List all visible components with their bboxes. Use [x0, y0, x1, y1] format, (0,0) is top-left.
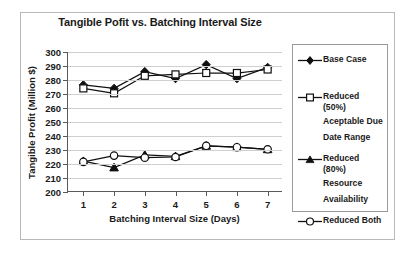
y-axis-tick — [63, 66, 68, 67]
x-axis-label: Batching Interval Size (Days) — [67, 213, 282, 224]
legend-item-reduced-resource-availability-line2: Resource — [297, 178, 383, 190]
gridline — [68, 94, 282, 95]
x-axis-tick — [114, 191, 115, 196]
x-axis-tick-label: 1 — [81, 199, 86, 210]
legend-key-spacer — [297, 133, 323, 144]
gridline — [68, 66, 282, 67]
y-axis-tick — [63, 94, 68, 95]
x-axis-tick-label: 5 — [204, 199, 209, 210]
x-axis-tick — [268, 191, 269, 196]
open-square-data-point — [80, 85, 87, 92]
legend-item-reduced-due-date-range-line3: Date Range — [297, 132, 383, 144]
legend-label: Base Case — [323, 54, 366, 65]
open-circle-marker-icon — [297, 216, 323, 227]
open-circle-data-point — [172, 153, 179, 160]
open-square-data-point — [172, 71, 179, 78]
x-axis-tick-label: 2 — [111, 199, 116, 210]
y-axis-tick — [63, 164, 68, 165]
y-axis-tick-label: 270 — [45, 89, 61, 100]
x-axis-tick-label: 4 — [173, 199, 178, 210]
open-square-data-point — [203, 70, 210, 77]
gridline — [68, 108, 282, 109]
y-axis-tick-label: 250 — [45, 117, 61, 128]
y-axis-tick — [63, 122, 68, 123]
y-axis-tick-label: 260 — [45, 103, 61, 114]
x-axis-tick — [237, 191, 238, 196]
y-axis-tick — [63, 150, 68, 151]
x-axis-tick-label: 6 — [234, 199, 239, 210]
x-axis-tick-label: 7 — [265, 199, 270, 210]
y-axis-tick-label: 210 — [45, 173, 61, 184]
open-square-data-point — [233, 70, 240, 77]
legend-label: Date Range — [323, 132, 370, 143]
x-axis-tick — [206, 191, 207, 196]
y-axis-tick — [63, 136, 68, 137]
y-axis-tick — [63, 52, 68, 53]
legend-spacer — [297, 70, 383, 91]
y-axis-tick-label: 280 — [45, 75, 61, 86]
gridline — [68, 122, 282, 123]
gridline — [68, 52, 282, 53]
x-axis-tick — [83, 191, 84, 196]
x-axis-tick — [145, 191, 146, 196]
chart-legend: Base Case Reduced (50%) Aceptable Due Da… — [292, 44, 388, 212]
gridline — [68, 136, 282, 137]
legend-label: Reduced Both — [323, 215, 381, 226]
legend-key-spacer — [297, 179, 323, 190]
legend-key-spacer — [297, 195, 323, 206]
y-axis-tick — [63, 108, 68, 109]
filled-diamond-data-point — [202, 60, 210, 68]
filled-triangle-marker-icon — [297, 154, 323, 165]
y-axis-tick-label: 300 — [45, 47, 61, 58]
x-axis-tick-label: 3 — [142, 199, 147, 210]
open-square-marker-icon — [297, 92, 323, 103]
open-square-data-point — [141, 72, 148, 79]
y-axis-tick — [63, 192, 68, 193]
y-axis-tick-label: 240 — [45, 131, 61, 142]
filled-diamond-marker-icon — [297, 55, 323, 66]
legend-item-reduced-resource-availability-line3: Availability — [297, 194, 383, 206]
legend-label: Resource — [323, 178, 362, 189]
open-circle-data-point — [141, 154, 148, 161]
plot-area: 2002102202302402502602702802903001234567 — [67, 52, 282, 192]
open-circle-data-point — [110, 152, 117, 159]
y-axis-tick — [63, 80, 68, 81]
legend-item-base-case[interactable]: Base Case — [297, 54, 383, 66]
gridline — [68, 150, 282, 151]
legend-label: Reduced (50%) — [323, 91, 383, 112]
open-square-data-point — [264, 66, 271, 73]
y-axis-tick-label: 200 — [45, 187, 61, 198]
legend-item-reduced-due-date-range[interactable]: Reduced (50%) — [297, 91, 383, 112]
legend-item-reduced-resource-availability[interactable]: Reduced (80%) — [297, 153, 383, 174]
legend-key-spacer — [297, 117, 323, 128]
gridline — [68, 178, 282, 179]
legend-item-reduced-due-date-range-line2: Aceptable Due — [297, 116, 383, 128]
open-circle-data-point — [203, 142, 210, 149]
y-axis-label-text: Tangible Profit (Million $) — [26, 66, 37, 179]
legend-item-reduced-both[interactable]: Reduced Both — [297, 215, 383, 227]
series-reduced-both — [80, 142, 272, 166]
chart-title: Tangible Pofit vs. Batching Interval Siz… — [30, 16, 290, 28]
y-axis-tick-label: 290 — [45, 61, 61, 72]
x-axis-tick — [176, 191, 177, 196]
y-axis-tick — [63, 178, 68, 179]
y-axis-tick-label: 220 — [45, 159, 61, 170]
legend-label: Aceptable Due — [323, 116, 383, 127]
y-axis-label: Tangible Profit (Million $) — [24, 52, 38, 192]
gridline — [68, 80, 282, 81]
legend-label: Reduced (80%) — [323, 153, 383, 174]
gridline — [68, 164, 282, 165]
y-axis-tick-label: 230 — [45, 145, 61, 156]
legend-label: Availability — [323, 194, 368, 205]
